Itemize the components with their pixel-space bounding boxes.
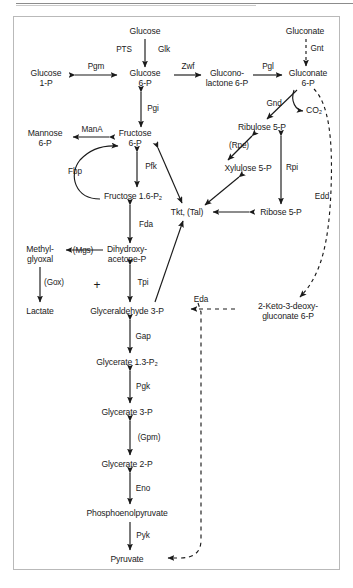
enzyme-gpm: (Gpm) bbox=[138, 433, 161, 442]
node-glyceraldehyde-3p: Glyceraldehyde 3-P bbox=[90, 306, 164, 316]
node-glycerate-3p: Glycerate 3-P bbox=[101, 407, 152, 417]
node-xylulose-5p: Xylulose 5-P bbox=[224, 163, 271, 173]
enzyme-edd: Edd bbox=[315, 192, 329, 201]
enzyme-tpi: Tpi bbox=[137, 278, 148, 287]
node-gluconate-ext: Gluconate bbox=[286, 26, 324, 36]
enzyme-pgk: Pgk bbox=[136, 382, 150, 391]
header-rule bbox=[16, 3, 353, 4]
enzyme-eda: Eda bbox=[194, 295, 208, 304]
enzyme-rpi: Rpi bbox=[286, 163, 298, 172]
node-fructose-6p: Fructose6-P bbox=[119, 128, 152, 148]
header-rule-secondary bbox=[16, 5, 256, 6]
enzyme-rpe: (Rpe) bbox=[229, 141, 249, 150]
node-glycerate-2p: Glycerate 2-P bbox=[101, 459, 152, 469]
node-dihydroxyacetone-p: Dihydroxy-acetone-P bbox=[107, 244, 147, 264]
node-mannose-6p: Mannose6-P bbox=[28, 128, 63, 148]
enzyme-pgl: Pgl bbox=[262, 62, 274, 71]
enzyme-glk: Glk bbox=[158, 45, 170, 54]
enzyme-pgm: Pgm bbox=[88, 62, 105, 71]
node-tkt-tal: Tkt, (Tal) bbox=[171, 207, 203, 217]
plus-symbol-triose: + bbox=[93, 278, 100, 292]
enzyme-pts: PTS bbox=[116, 45, 132, 54]
enzyme-gnd: Gnd bbox=[266, 99, 281, 108]
node-gluconolactone-6p: Glucono-lactone 6-P bbox=[206, 68, 248, 88]
enzyme-mgs: (Mgs) bbox=[73, 246, 93, 255]
node-co2: CO₂ bbox=[306, 105, 322, 115]
enzyme-gox: (Gox) bbox=[44, 278, 64, 287]
node-glucose-1p: Glucose1-P bbox=[31, 68, 62, 88]
node-glycerate-13p2: Glycerate 1.3-P₂ bbox=[96, 357, 157, 367]
enzyme-gnt: Gnt bbox=[311, 44, 324, 53]
enzyme-pfk: Pfk bbox=[145, 162, 157, 171]
node-keto-deoxy-gluconate-6p: 2-Keto-3-deoxy-gluconate 6-P bbox=[258, 301, 318, 321]
node-glucose-ext: Glucose bbox=[130, 26, 161, 36]
enzyme-fbp: Fbp bbox=[68, 167, 82, 176]
enzyme-fda: Fda bbox=[139, 220, 153, 229]
node-ribulose-5p: Ribulose 5-P bbox=[238, 122, 286, 132]
node-methylglyoxal: Methyl-glyoxal bbox=[26, 244, 53, 264]
node-lactate: Lactate bbox=[26, 306, 54, 316]
node-pyruvate: Pyruvate bbox=[110, 554, 143, 564]
figure-border bbox=[13, 16, 340, 570]
enzyme-pyk: Pyk bbox=[136, 531, 149, 540]
node-gluconate-6p: Gluconate6-P bbox=[289, 68, 327, 88]
enzyme-gap: Gap bbox=[135, 332, 150, 341]
enzyme-pgi: Pgi bbox=[147, 104, 159, 113]
node-glucose-6p: Glucose6-P bbox=[130, 68, 161, 88]
node-ribose-5p: Ribose 5-P bbox=[260, 207, 302, 217]
enzyme-eno: Eno bbox=[136, 484, 150, 493]
node-fructose-16p2: Fructose 1.6-P₂ bbox=[104, 191, 162, 201]
enzyme-zwf: Zwf bbox=[182, 62, 195, 71]
node-phosphoenolpyruvate: Phosphoenolpyruvate bbox=[86, 508, 167, 518]
figure-page: Glucose Glucose1-P Glucose6-P Glucono-la… bbox=[0, 0, 353, 588]
enzyme-mana: ManA bbox=[82, 125, 103, 134]
